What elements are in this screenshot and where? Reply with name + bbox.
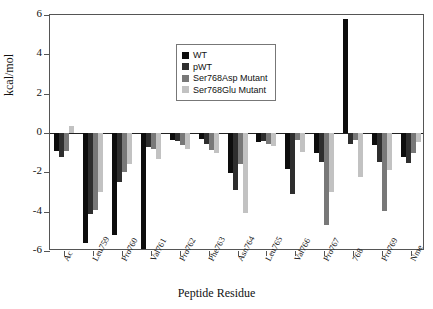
y-axis-title: kcal/mol [2,54,17,96]
y-tick [44,133,50,134]
y-tick-label: 4 [24,46,42,58]
bar [300,133,305,152]
y-tick-label: -6 [24,243,42,255]
bar [329,133,334,192]
y-tick [44,15,50,16]
bar [358,133,363,177]
bar [64,133,69,151]
y-tick [44,251,50,252]
legend-item-pwt[interactable]: pWT [182,61,268,72]
bar [416,133,421,142]
legend-label-wt: WT [193,50,207,60]
bar [141,133,146,249]
bar [214,133,219,153]
y-tick [44,212,50,213]
legend-swatch-pwt [182,63,189,70]
plot-area: WT pWT Ser768Asp Mutant Ser768Glu Mutant [49,14,424,250]
legend: WT pWT Ser768Asp Mutant Ser768Glu Mutant [176,44,276,101]
bar [69,126,74,133]
y-tick-label: -4 [24,204,42,216]
y-tick-label: 6 [24,7,42,19]
y-tick [44,94,50,95]
legend-swatch-ser768glu [182,86,189,93]
bar [243,133,248,213]
legend-swatch-wt [182,52,189,59]
legend-label-ser768asp: Ser768Asp Mutant [193,73,268,83]
y-tick-label: 2 [24,86,42,98]
legend-label-pwt: pWT [193,62,212,72]
y-tick-label: 0 [24,125,42,137]
bar [127,133,132,164]
bar [156,133,161,159]
x-tick-label: Ac [61,249,75,263]
legend-item-wt[interactable]: WT [182,50,268,61]
y-tick [44,172,50,173]
legend-item-ser768asp[interactable]: Ser768Asp Mutant [182,73,268,84]
legend-swatch-ser768asp [182,75,189,82]
x-axis-title: Peptide Residue [0,286,433,301]
y-tick-label: -2 [24,164,42,176]
bar [343,19,348,133]
bar [290,133,295,194]
bar [387,133,392,170]
y-tick [44,54,50,55]
bar-chart: kcal/mol 6420-2-4-6 WT pWT Ser768Asp Mut… [0,0,433,309]
bar [98,133,103,192]
legend-item-ser768glu[interactable]: Ser768Glu Mutant [182,84,268,95]
bar [271,133,276,146]
bar [185,133,190,149]
legend-label-ser768glu: Ser768Glu Mutant [193,85,266,95]
